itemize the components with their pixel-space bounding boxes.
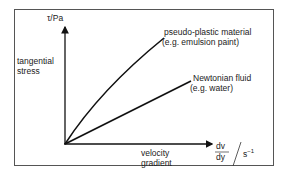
x-axis-unit-denominator: dy — [216, 152, 225, 162]
newtonian-example: (e.g. water) — [190, 83, 251, 93]
y-axis-description-line2: stress — [17, 66, 54, 76]
newtonian-label: Newtonian fluid (e.g. water) — [193, 73, 251, 93]
newtonian-name: Newtonian fluid — [193, 73, 251, 83]
x-axis-unit-exponent: −1 — [247, 148, 254, 154]
unit-slash — [233, 142, 241, 166]
x-axis-description-line1: velocity — [141, 148, 172, 158]
y-axis-description: tangential stress — [17, 56, 54, 76]
x-axis-unit-suffix: s−1 — [243, 146, 254, 159]
y-axis-description-line1: tangential — [17, 56, 54, 66]
x-axis-description-line2: gradient — [141, 158, 172, 168]
y-axis-unit-label: τ/Pa — [47, 13, 63, 23]
x-axis-description: velocity gradient — [141, 148, 172, 168]
pseudo-plastic-curve — [65, 38, 164, 144]
x-axis-unit-numerator: dv — [216, 141, 225, 151]
newtonian-line — [65, 81, 191, 144]
pseudo-plastic-name: pseudo-plastic material — [164, 27, 251, 37]
pseudo-plastic-label: pseudo-plastic material (e.g. emulsion p… — [164, 27, 251, 47]
pseudo-plastic-example: (e.g. emulsion paint) — [162, 37, 251, 47]
